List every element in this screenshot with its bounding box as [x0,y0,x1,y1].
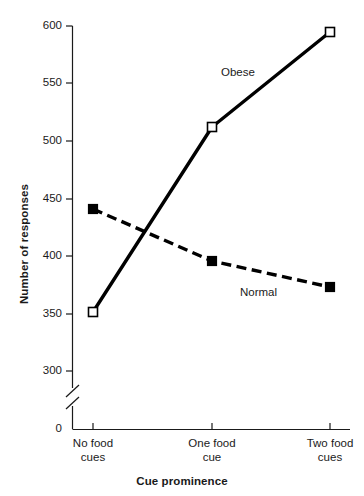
series-line-obese [93,32,330,312]
y-tick-label-600: 600 [24,20,62,32]
series-line-normal [93,209,330,287]
x-tick-marks [93,423,330,430]
series-annotation-obese: Obese [221,66,255,78]
y-tick-label-550: 550 [24,77,62,89]
x-category-label-two-food-cues: Two food cues [307,436,354,465]
series-annotation-normal: Normal [240,286,277,298]
x-category-line-1: No food [73,436,113,450]
x-category-line-1: One food [188,436,235,450]
series-markers-obese [89,28,335,317]
x-category-line-1: Two food [307,436,354,450]
y-tick-label-zero: 0 [24,423,62,435]
x-category-line-2: cues [307,450,354,464]
chart-canvas [0,0,364,496]
y-axis-title: Number of responses [18,144,30,344]
x-category-line-2: cue [188,450,235,464]
x-axis-title: Cue prominence [0,475,364,487]
y-tick-label-300: 300 [24,365,62,377]
x-category-label-no-food-cues: No food cues [73,436,113,465]
x-category-label-one-food-cue: One food cue [188,436,235,465]
y-tick-marks [66,26,73,371]
line-chart: 600 550 500 450 400 350 300 0 No food cu… [0,0,364,496]
x-category-line-2: cues [73,450,113,464]
